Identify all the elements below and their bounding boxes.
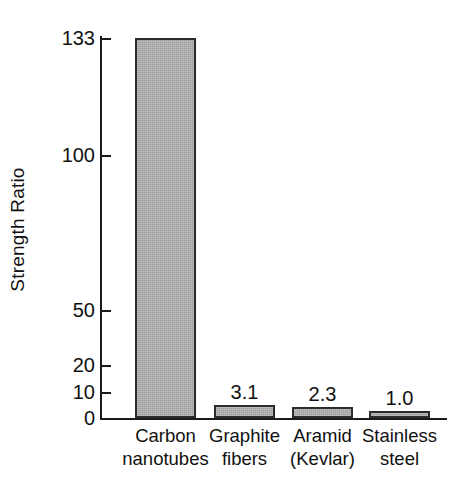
y-tick-mark xyxy=(100,365,111,367)
bar-value-label: 3.1 xyxy=(231,382,259,402)
y-tick-label: 10 xyxy=(73,382,95,402)
bar-carbon-nanotubes[interactable] xyxy=(135,38,196,418)
bar-chart-figure: Strength Ratio 133 100 50 20 10 0 xyxy=(0,0,458,495)
bar-value-label: 1.0 xyxy=(386,388,414,408)
x-axis-line xyxy=(100,418,447,420)
y-tick-label: 20 xyxy=(73,355,95,375)
y-tick-label: 50 xyxy=(73,300,95,320)
plot-area: 133 100 50 20 10 0 3.1 2.3 xyxy=(102,38,445,418)
y-tick-label: 133 xyxy=(62,28,95,48)
bar-graphite-fibers[interactable]: 3.1 xyxy=(214,405,275,418)
y-tick-label: 100 xyxy=(62,145,95,165)
y-axis-title: Strength Ratio xyxy=(0,0,36,495)
y-tick-mark xyxy=(100,155,111,157)
x-label-line1: Stainless xyxy=(342,424,457,447)
bar-aramid-kevlar[interactable]: 2.3 xyxy=(292,407,353,418)
x-label-stainless-steel: Stainless steel xyxy=(342,424,457,471)
y-tick-mark xyxy=(100,310,111,312)
bar-value-label: 2.3 xyxy=(309,384,337,404)
y-axis-line xyxy=(100,36,102,420)
y-tick-mark xyxy=(100,392,111,394)
y-axis-title-text: Strength Ratio xyxy=(7,167,29,291)
y-tick-mark xyxy=(100,38,111,40)
y-tick-label: 0 xyxy=(84,408,95,428)
x-label-line2: steel xyxy=(342,447,457,470)
bar-stainless-steel[interactable]: 1.0 xyxy=(369,411,430,418)
